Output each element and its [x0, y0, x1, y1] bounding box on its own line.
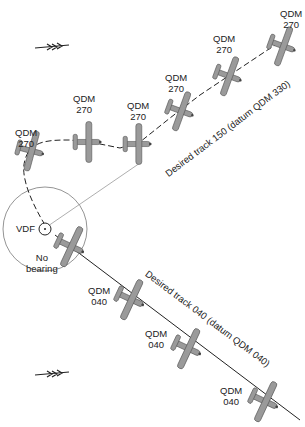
aircraft-icon [123, 124, 151, 165]
aircraft-icon [208, 52, 249, 100]
wind-arrow-icon [35, 43, 69, 50]
no-bearing-line1: No [26, 252, 58, 263]
qdm-label: QDM270 [73, 93, 95, 115]
qdm-label: QDM040 [145, 328, 167, 350]
aircraft-icon [241, 375, 287, 427]
lower-track-line [55, 235, 300, 420]
qdm-label: QDM270 [15, 127, 37, 149]
no-bearing-line2: bearing [26, 263, 58, 274]
qdm-label: QDM270 [127, 100, 149, 122]
qdm-label: QDM270 [213, 33, 235, 55]
vdf-label: VDF [16, 223, 35, 234]
aircraft-icon [73, 122, 101, 163]
no-bearing-label: No bearing [26, 252, 58, 274]
bearing-line [48, 163, 140, 226]
qdm-label: QDM270 [165, 72, 187, 94]
upper-track-line [24, 45, 275, 225]
qdm-label: QDM270 [280, 8, 302, 30]
qdm-label: QDM040 [220, 385, 242, 407]
wind-arrow-icon [35, 370, 69, 377]
aircraft-icon [107, 273, 153, 325]
qdm-label: QDM040 [88, 285, 110, 307]
aircraft-icon [164, 322, 210, 374]
